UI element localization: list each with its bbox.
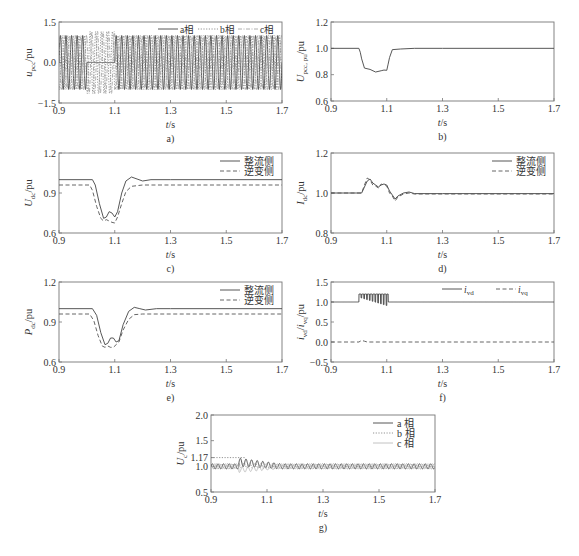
series-逆变侧: [59, 185, 282, 223]
plot-area: [331, 294, 554, 342]
y-tick-label: 1.2: [316, 17, 329, 28]
plot-area: [59, 31, 282, 93]
x-tick-label: 1.1: [381, 103, 394, 114]
panel-caption: e): [167, 392, 175, 404]
legend: a相b相c相: [158, 24, 274, 35]
y-tick-label: 1.17: [191, 452, 209, 463]
x-tick-label: 1.5: [220, 364, 233, 375]
y-axis-label: Uc/pu: [175, 441, 189, 466]
legend-label: 逆变侧: [516, 165, 546, 177]
legend-label: 逆变侧: [244, 294, 274, 306]
y-axis-label: Idc/pu: [295, 180, 309, 205]
legend-label: ivd: [464, 285, 474, 297]
x-axis-label: t/s: [166, 378, 176, 389]
panel-caption: g): [319, 522, 327, 534]
x-tick-label: 1.3: [164, 364, 177, 375]
legend: 整流侧逆变侧: [220, 155, 274, 177]
legend-label: a相: [180, 24, 194, 35]
y-tick-label: 1.2: [44, 148, 57, 159]
x-tick-label: 1.1: [381, 364, 394, 375]
x-tick-label: 1.3: [436, 103, 449, 114]
panel-caption: a): [167, 133, 175, 145]
x-tick-label: 1.5: [492, 235, 505, 246]
legend-label: c相: [260, 24, 274, 35]
legend: a 相b 相c 相: [373, 417, 415, 449]
x-axis-label: t/s: [166, 119, 176, 130]
y-tick-label: −0.5: [310, 357, 328, 368]
chart-a: 0.91.11.31.51.7−1.50.01.5t/sa)upcc/pua相b…: [23, 17, 288, 146]
x-tick-label: 1.5: [220, 105, 233, 116]
x-tick-label: 1.5: [373, 494, 386, 505]
legend: 整流侧逆变侧: [220, 284, 274, 306]
x-axis-label: t/s: [438, 378, 448, 389]
series-i_vq: [331, 340, 554, 342]
y-axis-label: Pdc/pu: [23, 308, 37, 336]
x-tick-label: 1.7: [276, 235, 289, 246]
x-tick-label: 1.7: [276, 105, 289, 116]
y-tick-label: 0.8: [316, 69, 329, 80]
legend-label: 逆变侧: [244, 165, 274, 177]
series-整流侧: [59, 177, 282, 218]
x-tick-label: 1.1: [109, 364, 122, 375]
panel-caption: d): [438, 263, 446, 275]
x-axis-label: t/s: [438, 117, 448, 128]
x-tick-label: 1.7: [548, 364, 561, 375]
y-tick-label: 0.6: [44, 228, 57, 239]
chart-b: 0.91.11.31.51.70.60.81.01.2t/sb)Upcc, pu…: [295, 17, 560, 144]
y-tick-label: −1.5: [38, 98, 56, 109]
plot-area: [331, 178, 554, 201]
x-axis-label: t/s: [318, 508, 328, 519]
x-tick-label: 1.1: [381, 235, 394, 246]
panel-caption: c): [167, 263, 175, 275]
x-tick-label: 1.3: [317, 494, 330, 505]
plot-frame: [331, 22, 554, 101]
x-tick-label: 1.5: [492, 103, 505, 114]
y-tick-label: 0.0: [44, 57, 57, 68]
chart-f: 0.91.11.31.51.7−0.50.00.51.01.5t/sf)ivd/…: [295, 277, 560, 405]
x-tick-label: 1.3: [164, 235, 177, 246]
y-tick-label: 1.5: [196, 435, 209, 446]
x-tick-label: 1.3: [436, 364, 449, 375]
series-逆变侧: [59, 314, 282, 347]
x-tick-label: 1.7: [548, 103, 561, 114]
plot-area: [59, 307, 282, 347]
y-axis-label: ivd/ivq/pu: [295, 303, 309, 340]
y-tick-label: 0.0: [316, 337, 329, 348]
y-axis-label: upcc/pu: [23, 48, 37, 77]
y-tick-label: 0.9: [44, 188, 57, 199]
legend-label: ivq: [518, 285, 528, 297]
x-tick-label: 1.1: [261, 494, 274, 505]
series-整流侧: [59, 307, 282, 344]
plot-area: [331, 48, 554, 72]
series-逆变侧: [331, 178, 554, 201]
x-tick-label: 1.7: [276, 364, 289, 375]
y-tick-label: 0.6: [316, 96, 329, 107]
y-tick-label: 1.5: [316, 277, 329, 288]
series-U_pcc: [331, 48, 554, 72]
x-tick-label: 1.3: [436, 235, 449, 246]
chart-c: 0.91.11.31.51.70.60.91.2t/sc)Udc/pu整流侧逆变…: [23, 148, 288, 276]
chart-g: 0.91.11.31.51.70.51.01.171.52.0t/sg)Uc/p…: [175, 410, 441, 535]
y-tick-label: 0.8: [316, 228, 329, 239]
chart-d: 0.91.11.31.51.70.81.01.2t/sd)Idc/pu整流侧逆变…: [295, 148, 560, 276]
y-tick-label: 1.5: [44, 17, 57, 28]
legend-label: c 相: [397, 437, 414, 449]
y-axis-label: Upcc, pu/pu: [295, 40, 309, 82]
chart-e: 0.91.11.31.51.70.60.91.2t/se)Pdc/pu整流侧逆变…: [23, 277, 288, 405]
x-axis-label: t/s: [438, 249, 448, 260]
y-tick-label: 1.0: [316, 188, 329, 199]
y-tick-label: 0.9: [44, 317, 57, 328]
y-tick-label: 0.6: [44, 357, 57, 368]
y-tick-label: 2.0: [196, 410, 209, 421]
plot-area: [211, 458, 435, 472]
y-tick-label: 0.5: [316, 317, 329, 328]
x-axis-label: t/s: [166, 249, 176, 260]
y-tick-label: 1.0: [316, 297, 329, 308]
x-tick-label: 1.1: [109, 105, 122, 116]
y-tick-label: 1.2: [316, 148, 329, 159]
panel-caption: b): [438, 131, 446, 143]
figure: 0.91.11.31.51.7−1.50.01.5t/sa)upcc/pua相b…: [0, 0, 579, 556]
y-axis-label: Udc/pu: [23, 178, 37, 206]
panel-caption: f): [439, 392, 446, 404]
plot-area: [59, 177, 282, 223]
